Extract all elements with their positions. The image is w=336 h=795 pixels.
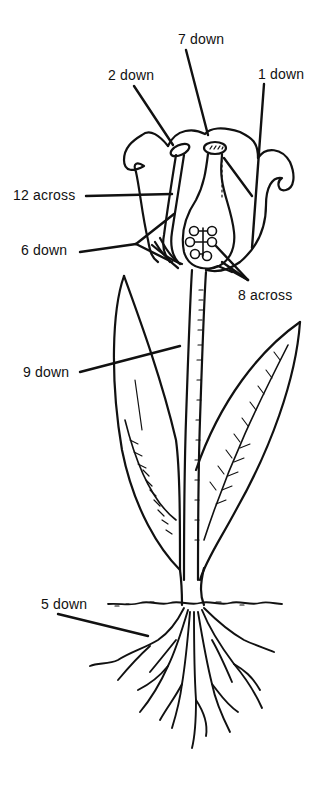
- label-12-across: 12 across: [13, 188, 76, 202]
- ground-line: [108, 602, 282, 606]
- leaf-right: [196, 322, 300, 580]
- label-9-down: 9 down: [23, 365, 69, 379]
- stem: [184, 270, 206, 580]
- stamen: [155, 141, 191, 268]
- label-5-down: 5 down: [41, 597, 87, 611]
- label-7-down: 7 down: [178, 32, 224, 46]
- label-1-down: 1 down: [258, 67, 304, 81]
- plant-illustration: [0, 0, 336, 795]
- leaf-left: [114, 276, 180, 570]
- plant-diagram: 1 down 2 down 7 down 12 across 6 down 8 …: [0, 0, 336, 795]
- label-2-down: 2 down: [108, 68, 154, 82]
- label-8-across: 8 across: [238, 288, 293, 302]
- label-6-down: 6 down: [21, 243, 67, 257]
